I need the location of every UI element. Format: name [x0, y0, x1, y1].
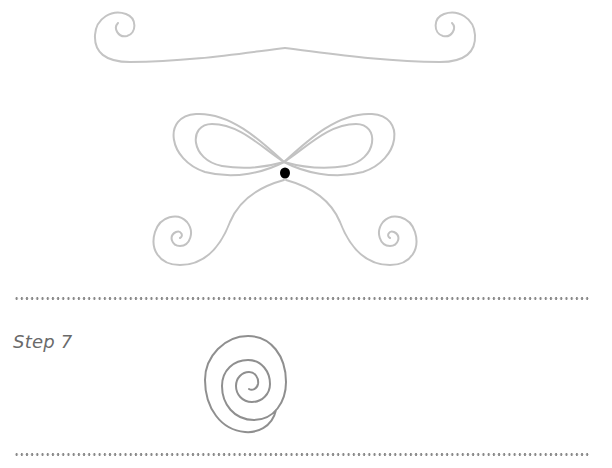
divider-bottom	[14, 453, 590, 456]
drawing-canvas	[0, 0, 612, 468]
step-label: Step 7	[13, 331, 72, 352]
mustache-scroll-figure	[95, 13, 475, 62]
bow-with-spirals-figure	[154, 114, 417, 265]
spiral-figure	[205, 336, 286, 432]
center-dot	[280, 168, 290, 179]
divider-top	[14, 297, 590, 300]
